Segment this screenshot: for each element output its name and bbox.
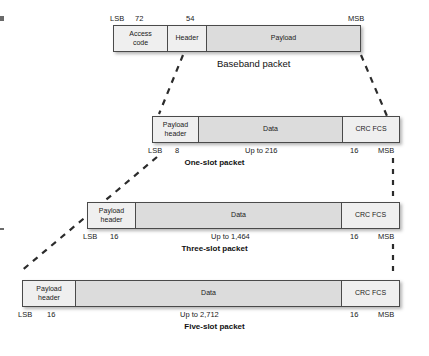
field-access-code: Access code <box>114 26 168 51</box>
field-one-slot-payload-header: Payload header <box>153 117 199 142</box>
field-five-slot-data-label: Data <box>201 289 216 297</box>
tick-five-slot-lsb: LSB <box>18 310 32 319</box>
three-slot-bar: Payload header Data CRC FCS <box>87 202 400 229</box>
connector-baseband-to-oneslot-left <box>159 55 183 114</box>
tick-baseband-msb: MSB <box>348 14 364 23</box>
field-three-slot-crc-fcs-label: CRC FCS <box>355 211 386 219</box>
scan-artifact-mid-left <box>0 228 4 230</box>
tick-three-slot-data-size: Up to 1,464 <box>211 232 250 241</box>
one-slot-bar: Payload header Data CRC FCS <box>152 116 400 143</box>
field-access-code-label-line1: Access <box>129 30 152 37</box>
tick-five-slot-payload-header-size: 16 <box>47 310 55 319</box>
field-one-slot-crc-fcs: CRC FCS <box>343 117 399 142</box>
field-three-slot-data-label: Data <box>231 211 246 219</box>
field-three-slot-crc-fcs: CRC FCS <box>342 203 399 228</box>
tick-baseband-header-size: 54 <box>186 14 194 23</box>
caption-three-slot-packet: Three-slot packet <box>0 244 429 253</box>
field-five-slot-payload-header: Payload header <box>23 281 76 306</box>
field-one-slot-data-label: Data <box>263 125 278 133</box>
field-header-label: Header <box>176 34 199 42</box>
tick-five-slot-crc-size: 16 <box>350 310 358 319</box>
tick-one-slot-lsb: LSB <box>148 146 162 155</box>
caption-five-slot-packet: Five-slot packet <box>0 322 429 331</box>
field-five-slot-payload-header-line1: Payload <box>36 285 61 292</box>
tick-three-slot-msb: MSB <box>378 232 394 241</box>
field-three-slot-payload-header-line2: header <box>101 216 123 223</box>
field-payload: Payload <box>207 26 360 51</box>
tick-baseband-access-code-size: 72 <box>135 14 143 23</box>
tick-three-slot-lsb: LSB <box>83 232 97 241</box>
caption-baseband-packet: Baseband packet <box>217 58 290 69</box>
field-three-slot-payload-header-line1: Payload <box>99 207 124 214</box>
tick-three-slot-payload-header-size: 16 <box>110 232 118 241</box>
field-one-slot-data: Data <box>199 117 343 142</box>
tick-baseband-lsb: LSB <box>110 14 124 23</box>
five-slot-bar: Payload header Data CRC FCS <box>22 280 400 307</box>
tick-one-slot-payload-header-size: 8 <box>175 146 179 155</box>
field-five-slot-payload-header-line2: header <box>38 294 60 301</box>
field-one-slot-payload-header-line1: Payload <box>163 121 188 128</box>
tick-one-slot-data-size: Up to 216 <box>245 146 278 155</box>
bluetooth-packet-format-diagram: LSB 72 54 MSB Access code Header Payload… <box>0 0 429 356</box>
tick-three-slot-crc-size: 16 <box>350 232 358 241</box>
field-five-slot-data: Data <box>76 281 342 306</box>
field-one-slot-payload-header-line2: header <box>165 130 187 137</box>
field-payload-label: Payload <box>271 34 296 42</box>
tick-five-slot-data-size: Up to 2,712 <box>180 310 219 319</box>
scan-artifact-top-left <box>0 16 4 21</box>
field-five-slot-crc-fcs: CRC FCS <box>342 281 399 306</box>
field-header: Header <box>168 26 207 51</box>
baseband-bar: Access code Header Payload <box>113 25 361 52</box>
field-three-slot-payload-header: Payload header <box>88 203 136 228</box>
tick-one-slot-crc-size: 16 <box>350 146 358 155</box>
field-one-slot-crc-fcs-label: CRC FCS <box>355 125 386 133</box>
tick-one-slot-msb: MSB <box>378 146 394 155</box>
field-access-code-label-line2: code <box>133 39 148 46</box>
field-three-slot-data: Data <box>136 203 342 228</box>
tick-five-slot-msb: MSB <box>378 310 394 319</box>
connector-baseband-to-oneslot-right <box>361 55 387 116</box>
field-five-slot-crc-fcs-label: CRC FCS <box>355 289 386 297</box>
caption-one-slot-packet: One-slot packet <box>0 158 429 167</box>
